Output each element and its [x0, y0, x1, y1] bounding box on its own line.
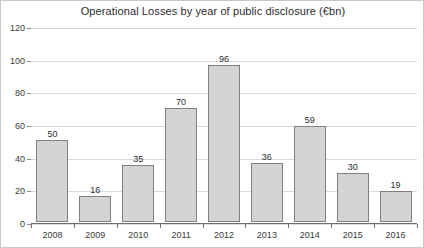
bar	[36, 140, 68, 222]
y-axis-tick-mark	[27, 61, 31, 62]
x-axis-tick-mark	[160, 224, 161, 228]
bar	[380, 191, 412, 222]
bar-value-label: 16	[75, 186, 115, 195]
bar-value-label: 50	[32, 130, 72, 139]
x-axis-tick-mark	[288, 224, 289, 228]
bar	[122, 165, 154, 222]
bar-value-label: 96	[204, 55, 244, 64]
bar-value-label: 19	[376, 181, 416, 190]
y-axis-tick-mark	[27, 28, 31, 29]
y-axis-tick-mark	[27, 126, 31, 127]
bar-value-label: 30	[333, 163, 373, 172]
y-axis-tick-label: 120	[1, 24, 25, 33]
y-axis-tick-mark	[27, 93, 31, 94]
bar-value-label: 70	[161, 98, 201, 107]
x-axis-tick-mark	[117, 224, 118, 228]
bar	[251, 163, 283, 222]
bar-value-label: 59	[290, 116, 330, 125]
x-axis-line	[31, 223, 417, 224]
y-axis-tick-label: 80	[1, 89, 25, 98]
y-axis-tick-mark	[27, 159, 31, 160]
x-axis-tick-label: 2011	[160, 231, 202, 240]
bar	[294, 126, 326, 222]
x-axis-tick-mark	[331, 224, 332, 228]
y-axis-tick-label: 100	[1, 57, 25, 66]
y-axis-tick-label: 40	[1, 155, 25, 164]
x-axis-tick-mark	[245, 224, 246, 228]
bar-value-label: 36	[247, 153, 287, 162]
x-axis-tick-mark	[31, 224, 32, 228]
y-axis-tick-label: 60	[1, 122, 25, 131]
x-axis-tick-label: 2015	[332, 231, 374, 240]
x-axis-tick-mark	[374, 224, 375, 228]
x-axis-tick-label: 2009	[74, 231, 116, 240]
x-axis-tick-label: 2010	[117, 231, 159, 240]
y-axis-tick-mark	[27, 224, 31, 225]
x-axis-tick-mark	[417, 224, 418, 228]
gridline	[31, 28, 417, 29]
x-axis-tick-label: 2014	[289, 231, 331, 240]
gridline	[31, 224, 417, 225]
y-axis-tick-label: 20	[1, 187, 25, 196]
bar	[79, 196, 111, 222]
x-axis-tick-label: 2016	[375, 231, 417, 240]
bar	[208, 65, 240, 222]
x-axis-tick-mark	[203, 224, 204, 228]
y-axis-tick-mark	[27, 191, 31, 192]
x-axis-tick-label: 2013	[246, 231, 288, 240]
x-axis-tick-label: 2008	[31, 231, 73, 240]
x-axis-tick-mark	[74, 224, 75, 228]
bar-chart: Operational Losses by year of public dis…	[0, 0, 424, 248]
bar	[165, 108, 197, 222]
y-axis-tick-label: 0	[1, 220, 25, 229]
bar-value-label: 35	[118, 155, 158, 164]
x-axis-tick-label: 2012	[203, 231, 245, 240]
bar	[337, 173, 369, 222]
chart-title: Operational Losses by year of public dis…	[1, 5, 424, 17]
